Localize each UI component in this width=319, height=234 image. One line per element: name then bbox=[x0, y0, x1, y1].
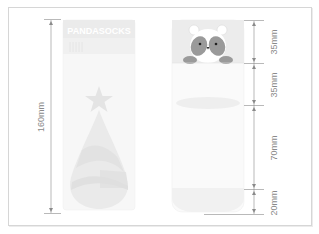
heel-oval bbox=[176, 97, 240, 109]
sock-diagram: PANDASOCKS 160mm bbox=[0, 0, 319, 234]
segment-label-upper: 35mm bbox=[269, 72, 279, 97]
arrow-up-icon bbox=[49, 21, 53, 25]
left-dimension bbox=[44, 20, 61, 214]
left-sock: PANDASOCKS bbox=[63, 20, 135, 210]
toe-region bbox=[172, 188, 244, 212]
arrow-down-icon bbox=[49, 208, 53, 212]
segment-label-cuff: 35mm bbox=[269, 29, 279, 54]
panda-icon bbox=[183, 25, 233, 64]
logo-text: PANDASOCKS bbox=[67, 26, 130, 36]
right-sock bbox=[172, 20, 244, 212]
segment-label-foot: 70mm bbox=[269, 135, 279, 160]
segment-label-toe: 20mm bbox=[269, 190, 279, 215]
length-label: 160mm bbox=[36, 102, 46, 132]
